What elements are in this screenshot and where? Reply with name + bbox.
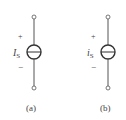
source-label: iS [87,48,94,60]
plus-sign: + [18,33,23,41]
figure-caption: (b) [100,104,111,113]
figure-b: + iS − (b) [63,0,126,120]
figure-a: + IS − (a) [0,0,63,120]
plus-sign: + [91,33,96,41]
figure-caption: (a) [26,104,36,113]
minus-sign: − [18,63,23,72]
source-label-sub: S [90,52,94,60]
source-label: IS [13,48,20,60]
current-source-symbol-b [63,0,126,120]
minus-sign: − [91,63,96,72]
current-source-symbol-a [0,0,63,120]
source-label-sub: S [16,52,20,60]
